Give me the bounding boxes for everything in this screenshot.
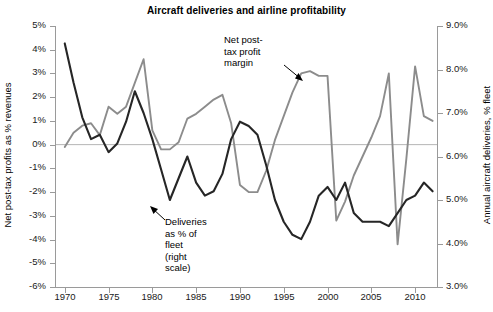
x-axis-tick-label: 1975 — [89, 292, 129, 302]
x-axis-tick-label: 1985 — [176, 292, 216, 302]
y-axis-right-tick — [438, 113, 443, 114]
y-axis-left-tick — [50, 97, 55, 98]
annotation-arrow-deliveries-icon — [148, 204, 170, 222]
y-axis-left-tick — [50, 240, 55, 241]
y-axis-left-tick — [50, 168, 55, 169]
y-axis-right-tick-label: 5.0% — [446, 194, 468, 204]
y-axis-right-tick-label: 6.0% — [446, 151, 468, 161]
y-axis-left-title: Net post-tax profits as % revenues — [0, 30, 14, 280]
y-axis-right-title-label: Annual aircraft deliveries, % fleet — [481, 86, 492, 224]
y-axis-left-tick — [50, 263, 55, 264]
annotation-deliveries-as-pct-of-fleet: Deliveries as % of fleet (right scale) — [165, 216, 227, 274]
x-axis-tick-label: 1980 — [132, 292, 172, 302]
y-axis-right-tick — [438, 26, 443, 27]
y-axis-left-tick-label: 0% — [32, 139, 46, 149]
y-axis-left-tick-label: -6% — [29, 281, 46, 291]
y-axis-left-tick-label: -5% — [29, 257, 46, 267]
y-axis-left-tick — [50, 121, 55, 122]
y-axis-left-tick-label: 4% — [32, 44, 46, 54]
y-axis-right-title: Annual aircraft deliveries, % fleet — [479, 30, 493, 280]
y-axis-left-tick-label: 1% — [32, 115, 46, 125]
y-axis-left-tick-label: -4% — [29, 234, 46, 244]
annotation-net-post-tax-profit-margin: Net post- tax profit margin — [224, 34, 286, 69]
x-axis-line — [56, 287, 438, 288]
y-axis-left-tick — [50, 192, 55, 193]
x-axis-tick-label: 1990 — [220, 292, 260, 302]
y-axis-right-tick — [438, 244, 443, 245]
x-axis-tick-label: 2010 — [395, 292, 435, 302]
y-axis-left-tick-label: 5% — [32, 20, 46, 30]
y-axis-right-tick — [438, 287, 443, 288]
y-axis-left-tick — [50, 26, 55, 27]
page-title: Aircraft deliveries and airline profitab… — [0, 5, 493, 16]
y-axis-right-tick-label: 4.0% — [446, 238, 468, 248]
x-axis-tick-label: 2000 — [308, 292, 348, 302]
y-axis-right-tick-label: 3.0% — [446, 281, 468, 291]
y-axis-left-tick — [50, 145, 55, 146]
y-axis-left-tick-label: -3% — [29, 210, 46, 220]
y-axis-right-tick — [438, 200, 443, 201]
y-axis-left-tick — [50, 287, 55, 288]
series-line-deliveries-as-of-fleet — [65, 43, 433, 239]
series-line-net-post-tax-profit-margin — [65, 59, 433, 244]
annotation-arrow-profit-icon — [283, 64, 309, 84]
y-axis-right-tick-label: 9.0% — [446, 20, 468, 30]
y-axis-right-tick-label: 7.0% — [446, 107, 468, 117]
y-axis-left-tick — [50, 73, 55, 74]
y-axis-right-tick-label: 8.0% — [446, 64, 468, 74]
y-axis-left-title-label: Net post-tax profits as % revenues — [2, 82, 13, 227]
y-axis-left-tick — [50, 216, 55, 217]
y-axis-right-tick — [438, 157, 443, 158]
y-axis-left-tick-label: -1% — [29, 162, 46, 172]
y-axis-right-tick — [438, 70, 443, 71]
chart-screenshot: Aircraft deliveries and airline profitab… — [0, 0, 493, 312]
y-axis-left-tick-label: 3% — [32, 67, 46, 77]
x-axis-tick-label: 1970 — [45, 292, 85, 302]
x-axis-tick-label: 2005 — [351, 292, 391, 302]
x-axis-tick-label: 1995 — [264, 292, 304, 302]
y-axis-left-tick-label: -2% — [29, 186, 46, 196]
y-axis-left-tick-label: 2% — [32, 91, 46, 101]
y-axis-left-tick — [50, 50, 55, 51]
